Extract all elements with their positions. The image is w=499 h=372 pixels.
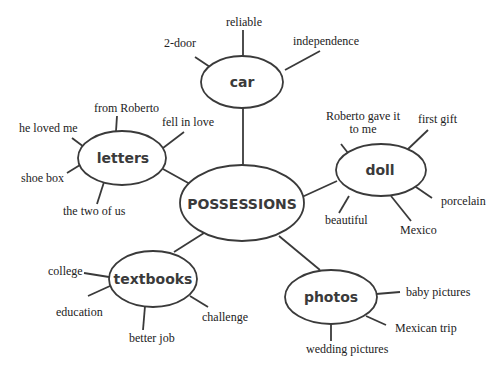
textbooks-node-label: textbooks <box>114 271 193 287</box>
doll-node-label: doll <box>365 162 394 178</box>
detail-better-job: better job <box>129 332 175 345</box>
detail-education: education <box>56 306 103 319</box>
detail-shoe-box: shoe box <box>21 172 64 185</box>
detail-wedding-pictures: wedding pictures <box>306 343 388 356</box>
detail-the-two-of-us: the two of us <box>63 205 125 218</box>
detail-he-loved-me: he loved me <box>19 122 78 135</box>
letters-node-label: letters <box>97 150 149 166</box>
detail-from-roberto: from Roberto <box>94 102 159 115</box>
detail-beautiful: beautiful <box>325 214 368 227</box>
detail-reliable: reliable <box>226 16 262 29</box>
detail-first-gift: first gift <box>418 113 457 126</box>
detail-roberto-gave-it: Roberto gave it to me <box>300 110 426 136</box>
detail-independence: independence <box>293 35 359 48</box>
detail-fell-in-love: fell in love <box>162 116 214 129</box>
photos-node-label: photos <box>304 289 358 305</box>
detail-challenge: challenge <box>202 311 248 324</box>
center-node-label: POSSESSIONS <box>187 196 297 212</box>
detail-porcelain: porcelain <box>441 195 486 208</box>
detail-college: college <box>48 265 83 278</box>
detail-baby-pictures: baby pictures <box>406 286 470 299</box>
detail-mexican-trip: Mexican trip <box>395 322 457 335</box>
cluster-diagram: POSSESSIONS car letters doll textbooks p… <box>0 0 499 372</box>
detail-2-door: 2-door <box>164 37 196 50</box>
detail-mexico: Mexico <box>400 224 437 237</box>
detail-roberto-gave-it-line2: to me <box>300 123 426 136</box>
car-node-label: car <box>230 74 255 90</box>
